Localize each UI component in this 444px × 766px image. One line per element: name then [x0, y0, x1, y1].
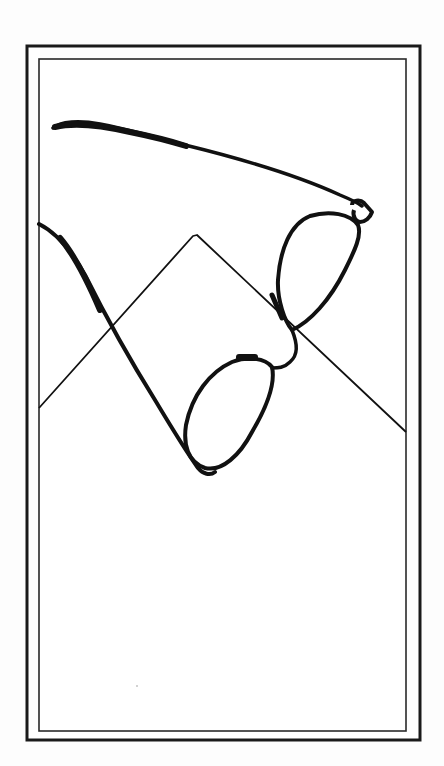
- speck: [136, 685, 138, 687]
- illustration: [0, 0, 444, 766]
- nose-pad-lower: [236, 354, 258, 361]
- outer-frame: [27, 46, 420, 740]
